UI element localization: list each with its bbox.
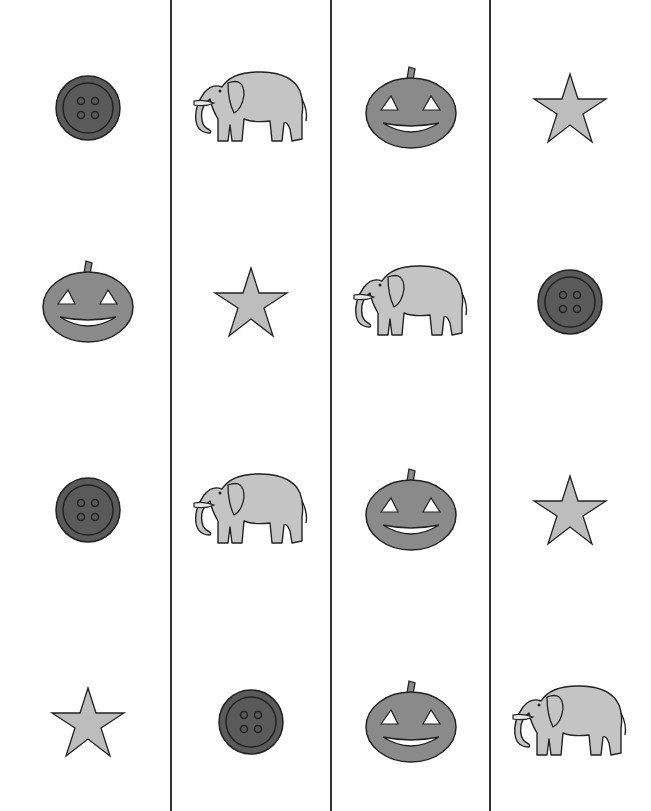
star-icon	[500, 460, 640, 560]
elephant-icon	[181, 460, 321, 560]
pumpkin-icon	[341, 58, 481, 158]
elephant-icon	[500, 672, 640, 772]
button-icon	[181, 672, 321, 772]
column-divider-1	[170, 0, 172, 811]
pumpkin-icon	[18, 252, 158, 352]
pumpkin-icon	[341, 460, 481, 560]
button-icon	[18, 460, 158, 560]
star-icon	[18, 672, 158, 772]
pumpkin-icon	[341, 672, 481, 772]
star-icon	[181, 252, 321, 352]
column-divider-2	[330, 0, 332, 811]
elephant-icon	[341, 252, 481, 352]
button-icon	[18, 58, 158, 158]
column-divider-3	[489, 0, 491, 811]
star-icon	[500, 58, 640, 158]
button-icon	[500, 252, 640, 352]
elephant-icon	[181, 58, 321, 158]
